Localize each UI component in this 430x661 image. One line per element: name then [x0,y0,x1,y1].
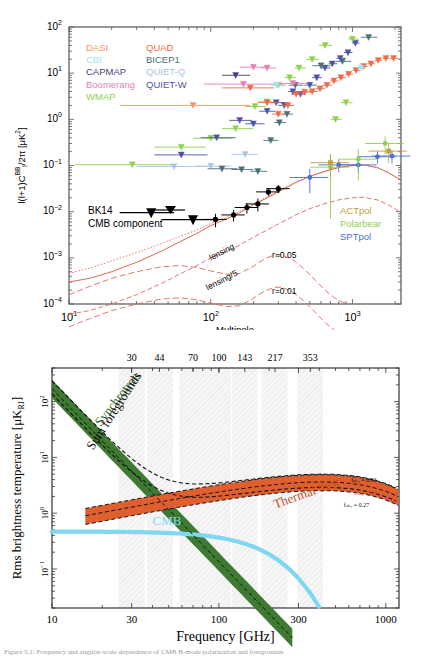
data-point [307,175,312,180]
data-point [276,186,281,191]
legend-item-dasi: DASI [86,42,108,53]
legend-item-capmap: CAPMAP [86,66,126,77]
x-tick-label-300: 300 [290,613,307,625]
y-axis-label: l(l+1)CBBl/2π [μK2] [14,127,28,203]
data-point [383,141,388,146]
data-point [244,205,249,210]
band-label-353: 353 [303,352,318,363]
data-point [390,154,395,159]
data-point [386,149,391,154]
curve-label: r=0.05 [272,250,297,260]
band-label-143: 143 [237,352,252,363]
x-tick-label-10: 10 [47,613,59,625]
legend-item-cbi: CBI [86,54,102,65]
legend-item-quiet-q: QUIET-Q [146,66,185,77]
fsky-annotation-lower: fₛₖᵧ = 0.27 [344,502,369,509]
y-axis-label: Rms brightness temperature [μKRJ] [9,397,26,580]
x-axis-label: Frequency [GHz] [176,629,274,644]
x-tick-label-30: 30 [126,613,138,625]
cmb-label: CMB [152,513,181,528]
bb-power-spectrum-panel: 101102103Multipole10210110010−110−210−31… [0,0,430,330]
data-point [328,160,333,165]
data-point [266,189,271,194]
band-label-217: 217 [268,352,283,363]
legend-item-boomerang: Boomerang [86,79,135,90]
band-label-44: 44 [154,352,164,363]
legend-item-actpol: ACTpol [340,205,372,216]
data-point [213,217,218,222]
curve-label: r=0.01 [272,286,297,296]
legend-item-bicep1: BICEP1 [146,54,180,65]
x-tick-label-100: 100 [211,613,228,625]
figure-caption: Figure 5.1: Frequency and angular-scale … [4,648,426,660]
band-label-70: 70 [188,352,198,363]
legend-item-quad: QUAD [146,42,174,53]
fsky-annotation-middle: fₛₖᵧ = 0.6 [355,490,377,497]
band-label-100: 100 [211,352,226,363]
x-tick-label-1000: 1000 [375,613,398,625]
legend-item-sptpol: SPTpol [340,231,371,242]
band-label-30: 30 [127,352,137,363]
bk14-label-line1: BK14 [88,205,113,216]
data-point [375,154,380,159]
legend-item-wmap: WMAP [86,91,116,102]
data-point [356,157,361,162]
legend-item-quiet-w: QUIET-W [146,79,187,90]
data-point [255,201,260,206]
legend-item-polarbear: Polarbear [340,218,381,229]
foreground-brightness-panel: 30447010014321735310301003001000Frequenc… [0,330,430,661]
bk14-label-line2: CMB component [88,218,163,229]
figure-page: 101102103Multipole10210110010−110−210−31… [0,0,430,661]
fsky-annotation-upper: fₛₖᵧ = 0.83 [351,477,376,484]
data-point [231,212,236,217]
